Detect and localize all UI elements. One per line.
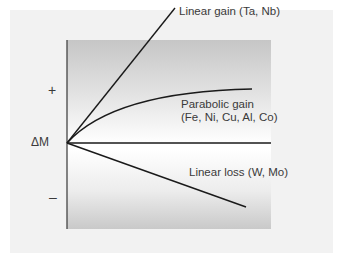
linear-loss-label: Linear loss (W, Mo) [189, 166, 288, 179]
positive-sign: + [48, 82, 56, 98]
linear-gain-label: Linear gain (Ta, Nb) [179, 5, 280, 18]
parabolic-gain-elements: (Fe, Ni, Cu, Al, Co) [181, 111, 278, 124]
diagram-svg [0, 0, 351, 263]
delta-m-label: ΔM [31, 136, 49, 149]
parabolic-gain-label: Parabolic gain [181, 98, 254, 111]
linear-gain-line [67, 8, 175, 143]
negative-sign: – [49, 189, 57, 205]
